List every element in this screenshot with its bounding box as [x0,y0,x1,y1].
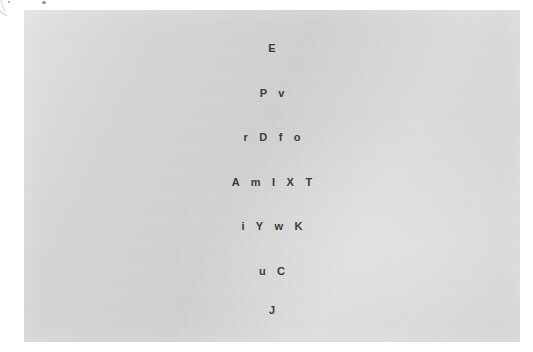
letter-row-4: A m I X T [24,176,520,188]
letter-row-2: P v [24,87,520,99]
screenshot-root: E P v r D f o A m I X T i Y w K u C J [0,0,533,352]
artifact-stroke-primary [0,7,16,16]
corner-pencil-artifact [0,0,22,16]
letter-row-7: J [24,304,520,316]
letter-row-1: E [24,42,520,54]
artifact-stroke-secondary [0,0,6,12]
letter-row-6: u C [24,265,520,277]
gray-paper-panel: E P v r D f o A m I X T i Y w K u C J [24,10,520,342]
letter-row-3: r D f o [24,131,520,143]
letter-row-5: i Y w K [24,220,520,232]
artifact-dot [8,1,10,3]
top-speck-artifact [42,1,46,4]
letter-pyramid: E P v r D f o A m I X T i Y w K u C J [24,10,520,342]
